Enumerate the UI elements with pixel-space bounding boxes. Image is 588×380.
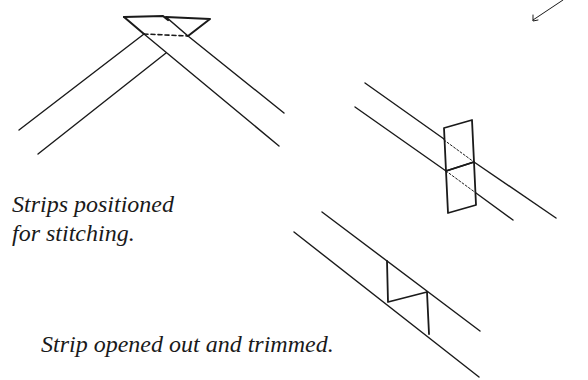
left-strip-inner-edge xyxy=(38,53,166,154)
right-strip-lower-edge xyxy=(144,34,279,146)
trimmed-seam-left xyxy=(387,261,427,302)
left-strip-fold-edge xyxy=(124,17,144,34)
caption-strips-positioned: Strips positioned for stitching. xyxy=(12,190,174,248)
stitch-line-dotted-lower xyxy=(446,171,476,193)
strip-edge-upper-b xyxy=(474,162,556,218)
caption-line-2: for stitching. xyxy=(12,219,174,248)
stitch-line-dashed xyxy=(144,34,188,36)
arrow-fragment xyxy=(533,0,563,20)
right-strip-upper-edge xyxy=(188,36,284,113)
strip-edge-lower-a xyxy=(355,107,446,171)
trimmed-seam-right xyxy=(427,292,429,334)
caption-line-1: Strips positioned xyxy=(12,190,174,219)
stitch-line-dotted-upper xyxy=(444,140,474,162)
right-strip-fold-edge xyxy=(166,17,188,36)
caption-strip-opened: Strip opened out and trimmed. xyxy=(41,330,334,359)
left-strip-outer-edge xyxy=(19,34,144,130)
strip-edge-upper-a xyxy=(365,83,444,139)
seam-flap-lower xyxy=(446,162,476,213)
opened-strip-upper-edge xyxy=(322,212,480,331)
figure-strips-positioned xyxy=(19,16,284,154)
strip-edge-lower-b xyxy=(476,193,513,220)
left-strip-top-fold xyxy=(124,16,168,20)
right-strip-top-fold xyxy=(166,17,210,36)
figure-strip-stitched xyxy=(355,0,563,220)
